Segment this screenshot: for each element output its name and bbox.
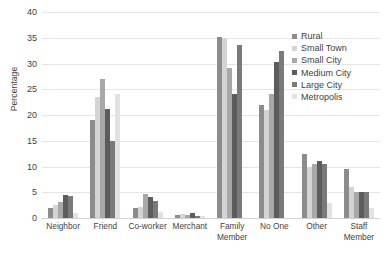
bar [115, 94, 120, 218]
legend-swatch-icon [292, 46, 297, 51]
y-axis-tick-label: 40 [27, 8, 37, 17]
y-axis-tick-label: 0 [32, 214, 37, 223]
y-axis-tick-label: 15 [27, 136, 37, 145]
bar-group [253, 12, 295, 218]
x-axis-labels: NeighborFriendCo-workerMerchantFamily Me… [42, 221, 380, 242]
x-axis-tick-label: Neighbor [42, 221, 84, 242]
legend-label: Small Town [301, 43, 347, 53]
y-axis-title: Percentage [9, 49, 19, 129]
y-axis-tick-label: 10 [27, 162, 37, 171]
legend-label: Medium City [301, 68, 351, 78]
bar-group [211, 12, 253, 218]
x-axis-tick-label: Co-worker [127, 221, 169, 242]
bar-group [169, 12, 211, 218]
legend-label: Metropolis [301, 92, 343, 102]
legend-swatch-icon [292, 94, 297, 99]
y-axis-tick-label: 30 [27, 59, 37, 68]
gridline [42, 218, 380, 219]
bar [200, 216, 205, 218]
legend-label: Large City [301, 80, 342, 90]
legend-item[interactable]: Medium City [292, 68, 351, 78]
bar [279, 51, 284, 218]
bar-group [84, 12, 126, 218]
x-axis-tick-label: Friend [84, 221, 126, 242]
y-axis-tick-label: 5 [32, 188, 37, 197]
x-axis-tick-label: Staff Member [338, 221, 380, 242]
legend-swatch-icon [292, 58, 297, 63]
legend-swatch-icon [292, 34, 297, 39]
x-axis-tick-label: Family Member [211, 221, 253, 242]
y-axis-tick-label: 35 [27, 33, 37, 42]
legend-item[interactable]: Small Town [292, 43, 351, 53]
legend-item[interactable]: Metropolis [292, 92, 351, 102]
legend-label: Small City [301, 55, 342, 65]
legend-item[interactable]: Large City [292, 80, 351, 90]
y-axis-tick-label: 20 [27, 111, 37, 120]
bar [73, 213, 78, 218]
bar-group [42, 12, 84, 218]
x-axis-tick-label: Merchant [169, 221, 211, 242]
bar [369, 208, 374, 218]
chart-legend: RuralSmall TownSmall CityMedium CityLarg… [292, 31, 351, 102]
bar [158, 212, 163, 218]
y-axis-tick-label: 25 [27, 85, 37, 94]
bar [237, 45, 242, 218]
x-axis-tick-label: Other [296, 221, 338, 242]
bar [327, 203, 332, 218]
bar-group [127, 12, 169, 218]
bar-chart: Percentage 0510152025303540 NeighborFrie… [0, 0, 387, 271]
legend-label: Rural [301, 31, 323, 41]
legend-swatch-icon [292, 70, 297, 75]
legend-item[interactable]: Small City [292, 55, 351, 65]
legend-swatch-icon [292, 82, 297, 87]
legend-item[interactable]: Rural [292, 31, 351, 41]
x-axis-tick-label: No One [253, 221, 295, 242]
